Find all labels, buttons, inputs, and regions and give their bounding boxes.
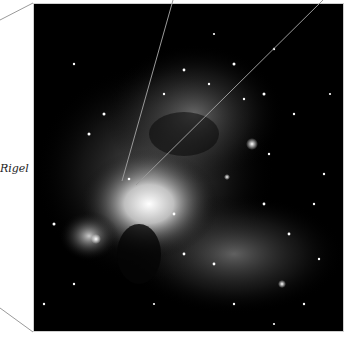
- nebula-rendering: [34, 4, 344, 332]
- nebula-photo: [33, 3, 344, 332]
- rigel-label: Rigel: [0, 162, 32, 175]
- zoom-guide-bottom-line: [0, 308, 33, 332]
- zoom-guide-top-line: [0, 3, 33, 20]
